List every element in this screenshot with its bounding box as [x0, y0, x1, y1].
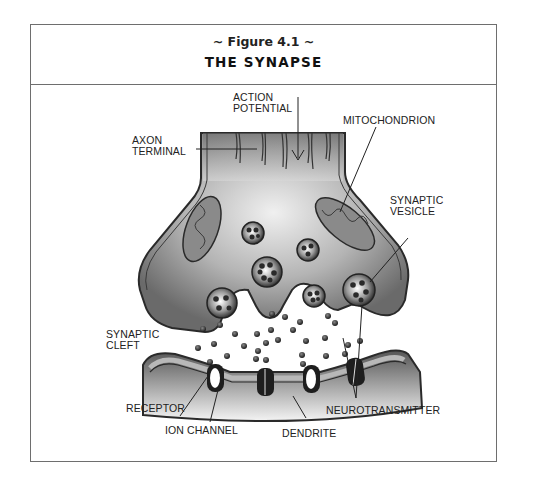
label-neurotransmitter: NEUROTRANSMITTER — [326, 405, 440, 416]
label-axon-terminal: AXON TERMINAL — [132, 135, 186, 157]
label-synaptic-cleft: SYNAPTIC CLEFT — [106, 329, 159, 351]
synapse-diagram — [0, 0, 545, 495]
label-synaptic-vesicle: SYNAPTIC VESICLE — [390, 195, 443, 217]
label-receptor: RECEPTOR — [126, 403, 185, 414]
label-action-potential: ACTION POTENTIAL — [233, 92, 292, 114]
label-ion-channel: ION CHANNEL — [165, 425, 238, 436]
label-dendrite: DENDRITE — [282, 428, 336, 439]
label-mitochondrion: MITOCHONDRION — [343, 115, 435, 126]
